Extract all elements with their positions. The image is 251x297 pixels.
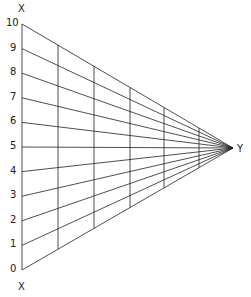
top-x-label: X bbox=[18, 4, 25, 14]
apex-y-label: Y bbox=[237, 144, 243, 154]
ray-line bbox=[22, 148, 233, 270]
ray-line bbox=[22, 122, 233, 148]
ray-line bbox=[22, 148, 233, 221]
scale-label: 4 bbox=[10, 166, 16, 176]
scale-label: 7 bbox=[10, 92, 16, 102]
ray-line bbox=[22, 98, 233, 148]
ray-line bbox=[22, 147, 233, 148]
scale-label: 6 bbox=[10, 116, 16, 126]
ray-line bbox=[22, 148, 233, 196]
scale-label: 5 bbox=[10, 141, 16, 151]
scale-label: 9 bbox=[10, 43, 16, 53]
ray-line bbox=[22, 49, 233, 148]
bottom-x-label: X bbox=[18, 282, 25, 292]
ray-line bbox=[22, 24, 233, 148]
scale-label: 3 bbox=[10, 190, 16, 200]
scale-label: 0 bbox=[10, 264, 16, 274]
scale-label: 10 bbox=[6, 18, 19, 28]
scale-label: 2 bbox=[10, 215, 16, 225]
ray-line bbox=[22, 73, 233, 148]
perspective-grid bbox=[0, 0, 251, 297]
ray-line bbox=[22, 148, 233, 245]
scale-label: 8 bbox=[10, 67, 16, 77]
scale-label: 1 bbox=[10, 239, 16, 249]
ray-line bbox=[22, 148, 233, 172]
